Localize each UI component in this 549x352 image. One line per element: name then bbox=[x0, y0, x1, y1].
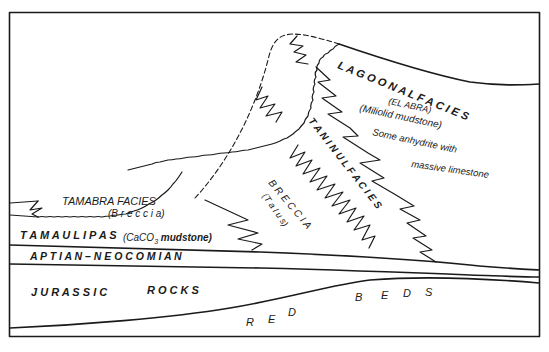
tamabra-breccia-label: (B r e c c i a) bbox=[108, 208, 165, 219]
aptian-base-boundary bbox=[10, 264, 539, 277]
red-beds-letter: E bbox=[381, 289, 389, 301]
anhydrite-note-label: Some anhydrite with bbox=[372, 126, 458, 155]
upper-reef-zigzag bbox=[290, 36, 308, 64]
red-beds-letter: B bbox=[355, 291, 362, 303]
tamaulipas-subtitle: (CaCO3 mudstone) bbox=[123, 232, 213, 245]
red-beds-letter: D bbox=[288, 306, 296, 318]
red-beds-letter: D bbox=[403, 287, 411, 299]
red-beds-letter: E bbox=[268, 313, 276, 325]
red-beds-letter: S bbox=[425, 286, 433, 298]
lagoonal-facies-label: L A G O O N A L F A C I E S (EL ABRA) (M… bbox=[336, 59, 489, 180]
red-beds-label: R E D B E D S bbox=[246, 286, 433, 328]
breccia-tamaulipas-zigzag bbox=[205, 200, 262, 250]
cross-section-diagram: L A G O O N A L F A C I E S (EL ABRA) (M… bbox=[0, 0, 549, 352]
breccia-taninul-zigzag bbox=[290, 145, 375, 248]
tamabra-tongue-top bbox=[10, 201, 38, 203]
rocks-label: R O C K S bbox=[147, 284, 200, 296]
aptian-neocomian-label: A P T I A N – N E O C O M I A N bbox=[29, 250, 182, 262]
red-beds-letter: R bbox=[246, 316, 254, 328]
tamaulipas-label: T A M A U L I P A S bbox=[20, 229, 117, 241]
jurassic-label: J U R A S S I C bbox=[31, 286, 108, 298]
tamabra-facies-label: TAMABRA FACIES bbox=[62, 195, 157, 207]
tamabra-tongue-zigzag bbox=[30, 201, 42, 217]
massive-limestone-label: massive limestone bbox=[411, 158, 490, 180]
tamabra-top-wavy bbox=[128, 44, 339, 170]
lower-reef-zigzag bbox=[256, 87, 282, 122]
